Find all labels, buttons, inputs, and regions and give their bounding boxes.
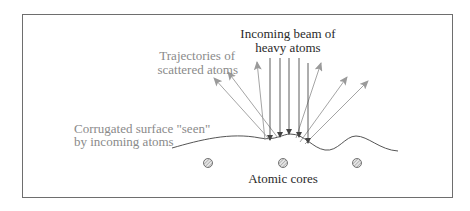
- atomic-core: [353, 159, 362, 168]
- trajectories-label-line2: scattered atoms: [158, 62, 239, 77]
- surface-label-line2: by incoming atoms: [74, 134, 174, 149]
- incoming-beam: [270, 58, 308, 143]
- trajectories-label-line1: Trajectories of: [159, 48, 235, 63]
- scattering-diagram: Incoming beam of heavy atoms Trajectorie…: [0, 0, 470, 211]
- atomic-cores-label: Atomic cores: [248, 171, 318, 186]
- atomic-core: [204, 159, 213, 168]
- atomic-core: [279, 159, 288, 168]
- beam-label-line2: heavy atoms: [255, 40, 320, 55]
- atomic-cores: [204, 159, 362, 168]
- diagram-frame: [23, 15, 453, 198]
- beam-label-line1: Incoming beam of: [240, 26, 336, 41]
- corrugated-surface: [172, 134, 398, 151]
